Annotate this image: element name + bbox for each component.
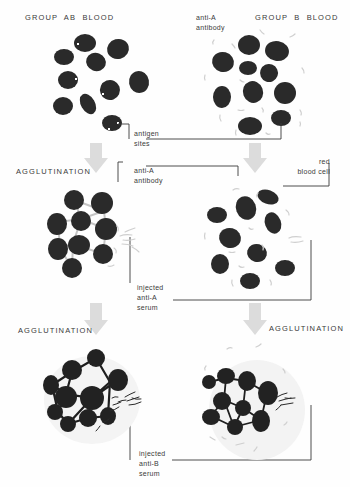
anti-a-antibody-label-top: anti-A antibody [196, 13, 225, 33]
anti-a-antibody-label-mid: anti-A antibody [134, 166, 163, 186]
group-b-blood-title: GROUP B BLOOD [255, 13, 338, 23]
b-non-agglutinated-cells [207, 187, 295, 289]
antigen-sites-label: antigen sites [134, 129, 159, 149]
down-arrow-icon [243, 303, 267, 335]
agglutination-label-2: AGGLUTINATION [18, 326, 93, 336]
ab-agglutinated-cells [47, 190, 117, 278]
diagram-graphics [0, 0, 350, 487]
down-arrow-icon [243, 143, 267, 173]
injected-anti-b-serum-label: injected anti-B serum [139, 449, 166, 479]
agglutination-label-3: AGGLUTINATION [269, 324, 344, 334]
agglutination-label-1: AGGLUTINATION [16, 167, 91, 177]
injected-anti-a-serum-label: injected anti-A serum [137, 283, 164, 313]
group-ab-blood-title: GROUP AB BLOOD [25, 13, 114, 23]
group-b-cells [210, 35, 296, 135]
red-blood-cell-label: red blood cell [290, 157, 330, 177]
group-ab-cells [53, 34, 151, 131]
blood-agglutination-diagram: GROUP AB BLOOD GROUP B BLOOD anti-A anti… [0, 0, 350, 487]
